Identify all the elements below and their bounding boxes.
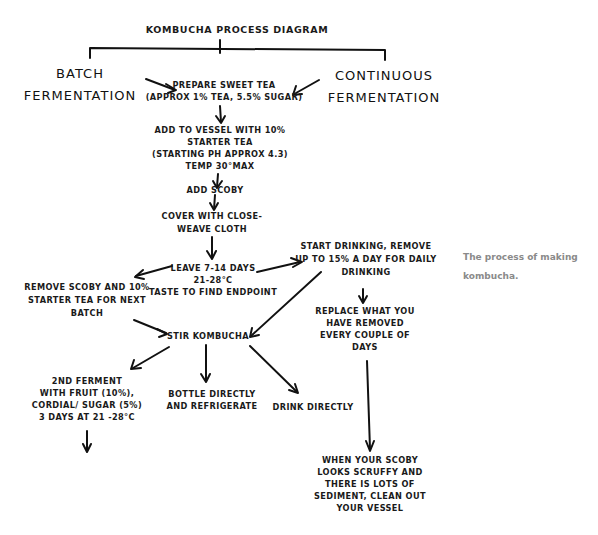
arrow-cover-to-leave	[207, 237, 216, 259]
node-leave-days: Leave 7-14 days 21-28°C taste to find en…	[149, 262, 277, 298]
title-bracket	[90, 48, 385, 60]
arrow-replace-to-clean	[366, 361, 374, 451]
arrow-second-ferment-down	[83, 431, 91, 452]
kombucha-process-diagram: Kombucha Process Diagram Batch Fermentat…	[0, 0, 598, 535]
node-stir-kombucha: Stir kombucha	[167, 329, 249, 344]
diagram-title: Kombucha Process Diagram	[146, 22, 328, 37]
node-cover-cloth: Cover with close- weave cloth	[162, 210, 263, 236]
node-prepare-sweet-tea: Prepare sweet tea (approx 1% tea, 5.5% s…	[146, 79, 303, 103]
node-replace-removed: Replace what you have removed every coup…	[315, 305, 415, 353]
node-remove-scoby: Remove scoby and 10% starter tea for nex…	[24, 281, 149, 320]
arrow-stir-to-bottle	[201, 345, 210, 382]
arrow-prepare-to-vessel	[216, 106, 225, 123]
node-batch-fermentation: Batch Fermentation	[24, 63, 136, 107]
arrow-remove-scoby-to-stir	[134, 320, 167, 337]
node-bottle-refrigerate: Bottle directly and refrigerate	[166, 388, 257, 412]
figure-caption: The process of making kombucha.	[463, 248, 578, 286]
arrow-stir-to-drink	[250, 346, 298, 393]
node-second-ferment: 2nd ferment with fruit (10%), cordial/ s…	[32, 375, 142, 423]
node-start-drinking: Start drinking, remove up to 15% a day f…	[295, 240, 436, 279]
arrow-stir-to-second-ferment	[131, 347, 169, 369]
node-add-scoby: Add scoby	[187, 183, 244, 198]
node-clean-vessel: When your scoby looks scruffy and there …	[314, 454, 426, 514]
arrow-start-drinking-to-replace	[359, 289, 367, 303]
node-continuous-fermentation: Continuous Fermentation	[328, 65, 440, 109]
node-drink-directly: Drink directly	[273, 400, 354, 415]
node-add-to-vessel: Add to vessel with 10% starter tea (star…	[152, 124, 288, 172]
